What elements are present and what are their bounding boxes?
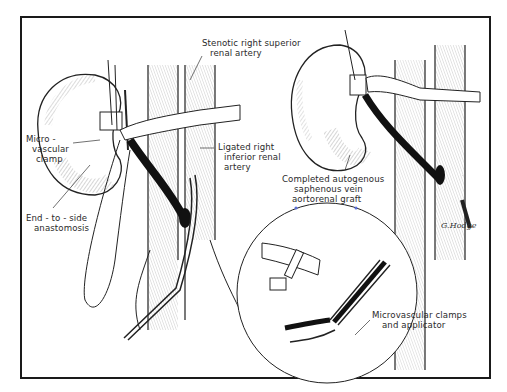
inset-circle (237, 203, 417, 383)
right-kidney (291, 45, 365, 171)
illustration (0, 0, 507, 392)
label-microvascular-clamp: Micro -vascularclamp (26, 134, 69, 164)
label-stenotic-artery: Stenotic right superiorrenal artery (202, 38, 301, 58)
label-clamps-applicator: Microvascular clampsand applicator (372, 310, 467, 330)
artist-signature: G.Hodge (441, 221, 476, 230)
label-end-to-side: End - to - sideanastomosis (26, 213, 89, 233)
label-ligated-artery: Ligated rightinferior renalartery (218, 142, 281, 172)
label-completed-graft: Completed autogenoussaphenous veinaortor… (282, 174, 384, 204)
left-aorta (148, 65, 215, 330)
